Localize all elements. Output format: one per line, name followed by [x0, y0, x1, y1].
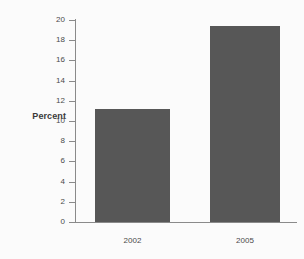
y-axis-tick-label: 12 [40, 97, 65, 105]
y-axis-tick-mark [69, 182, 75, 183]
y-axis-tick-mark [69, 40, 75, 41]
x-axis-label-2005: 2005 [215, 236, 275, 245]
y-axis-tick-label: 4 [40, 178, 65, 186]
x-axis-line [75, 222, 297, 223]
y-axis-tick-label: 16 [40, 56, 65, 64]
bar-2002[interactable] [95, 109, 170, 222]
bar-2005[interactable] [210, 26, 280, 222]
y-axis-tick-label: 6 [40, 157, 65, 165]
y-axis-line [75, 19, 76, 223]
y-axis-tick-label: 8 [40, 137, 65, 145]
y-axis-tick-label: 20 [40, 16, 65, 24]
y-axis-tick-mark [69, 161, 75, 162]
x-axis-label-2002: 2002 [103, 236, 163, 245]
y-axis-tick-label: 18 [40, 36, 65, 44]
y-axis-tick-mark [69, 20, 75, 21]
y-axis-tick-label: 2 [40, 198, 65, 206]
y-axis-tick-mark [69, 101, 75, 102]
y-axis-tick-label: 0 [40, 218, 65, 226]
y-axis-tick-mark [69, 222, 75, 223]
bar-chart: Percent 02468101214161820 20022005 [0, 0, 304, 259]
y-axis-tick-mark [69, 60, 75, 61]
y-axis-tick-mark [69, 81, 75, 82]
y-axis-tick-label: 14 [40, 77, 65, 85]
y-axis-tick-mark [69, 202, 75, 203]
y-axis-tick-mark [69, 141, 75, 142]
y-axis-tick-mark [69, 121, 75, 122]
y-axis-tick-label: 10 [40, 117, 65, 125]
